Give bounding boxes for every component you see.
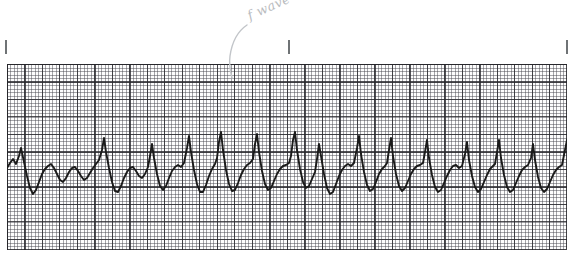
interval-tick-left bbox=[5, 40, 7, 54]
ecg-waveform bbox=[7, 64, 567, 250]
ecg-trace-line bbox=[7, 132, 567, 194]
interval-tick-center bbox=[288, 40, 290, 54]
ecg-rhythm-strip-page: f wave bbox=[0, 0, 573, 257]
interval-tick-right bbox=[566, 40, 568, 54]
f-wave-annotation-label: f wave bbox=[245, 0, 292, 23]
